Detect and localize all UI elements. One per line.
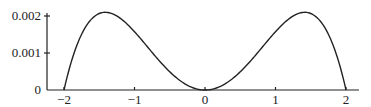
y-tick-label: 0 [35, 82, 42, 97]
y-ticks: 00.0010.002 [12, 8, 50, 97]
x-tick-label: 2 [343, 92, 350, 107]
line-chart: 00.0010.002 −2−1012 [0, 0, 371, 107]
x-tick-label: −2 [57, 92, 71, 107]
y-tick-label: 0.002 [12, 8, 41, 23]
data-curve [64, 12, 346, 90]
x-tick-label: 1 [272, 92, 279, 107]
x-tick-label: 0 [202, 92, 209, 107]
axes [47, 13, 359, 90]
y-tick-label: 0.001 [12, 45, 41, 60]
x-tick-label: −1 [128, 92, 142, 107]
